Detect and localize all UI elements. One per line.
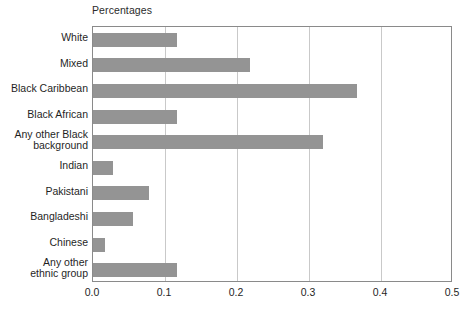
percentages-bar-chart: Percentages WhiteMixedBlack CaribbeanBla…: [0, 0, 463, 314]
bar: [93, 110, 177, 124]
bar: [93, 84, 357, 98]
x-tick-label: 0.0: [85, 286, 100, 298]
category-label: Bangladeshi: [0, 211, 88, 223]
bars: [93, 27, 451, 281]
x-axis-tick-labels: 0.00.10.20.30.40.5: [0, 286, 463, 306]
bar: [93, 58, 250, 72]
category-label: Any other ethnic group: [0, 257, 88, 280]
bar: [93, 212, 133, 226]
x-tick-label: 0.5: [445, 286, 460, 298]
bar: [93, 161, 113, 175]
x-tick-label: 0.3: [301, 286, 316, 298]
x-tick-label: 0.1: [157, 286, 172, 298]
bar: [93, 238, 105, 252]
category-label: White: [0, 32, 88, 44]
bar: [93, 186, 149, 200]
category-axis-labels: WhiteMixedBlack CaribbeanBlack AfricanAn…: [0, 26, 88, 282]
x-tick-label: 0.4: [373, 286, 388, 298]
category-label: Pakistani: [0, 186, 88, 198]
category-label: Black Caribbean: [0, 83, 88, 95]
chart-title: Percentages: [92, 4, 152, 16]
bar: [93, 263, 177, 277]
category-label: Indian: [0, 160, 88, 172]
plot-area: [92, 26, 452, 282]
bar: [93, 135, 323, 149]
category-label: Mixed: [0, 58, 88, 70]
category-label: Black African: [0, 109, 88, 121]
category-label: Any other Black background: [0, 129, 88, 152]
x-tick-label: 0.2: [229, 286, 244, 298]
bar: [93, 33, 177, 47]
category-label: Chinese: [0, 237, 88, 249]
